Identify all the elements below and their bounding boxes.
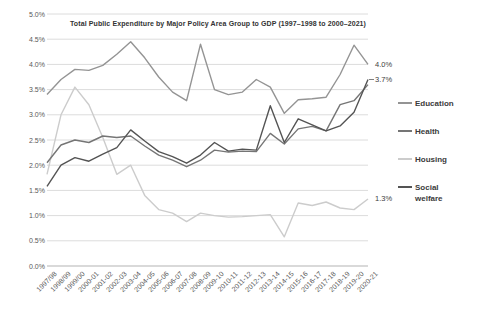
y-tick-label: 1.0% xyxy=(19,211,45,220)
legend-item-social-welfare: Social welfare xyxy=(398,182,470,204)
y-tick-label: 0.0% xyxy=(19,262,45,271)
end-label-leader-tick xyxy=(369,79,374,80)
legend-item-health: Health xyxy=(398,126,470,137)
y-tick-label: 3.0% xyxy=(19,110,45,119)
legend-label: Housing xyxy=(415,154,463,165)
y-tick-label: 3.5% xyxy=(19,85,45,94)
y-tick-label: 2.0% xyxy=(19,161,45,170)
legend-item-housing: Housing xyxy=(398,154,470,165)
legend: EducationHealthHousingSocial welfare xyxy=(398,98,470,221)
y-tick-label: 0.5% xyxy=(19,236,45,245)
series-line-education xyxy=(47,42,368,114)
y-tick-label: 5.0% xyxy=(19,10,45,19)
y-tick-label: 4.0% xyxy=(19,60,45,69)
end-label-social-welfare: 3.7% xyxy=(375,75,392,84)
y-tick-label: 1.5% xyxy=(19,186,45,195)
legend-line-swatch xyxy=(398,158,412,160)
series-line-health xyxy=(47,85,368,167)
chart-container: Total Public Expenditure by Major Policy… xyxy=(0,0,478,311)
y-tick-label: 4.5% xyxy=(19,35,45,44)
series-line-housing xyxy=(47,87,368,237)
legend-line-swatch xyxy=(398,102,412,104)
end-label-education: 4.0% xyxy=(375,60,392,69)
legend-label: Education xyxy=(415,98,463,109)
end-label-housing: 1.3% xyxy=(375,194,392,203)
legend-label: Social welfare xyxy=(415,182,463,204)
legend-item-education: Education xyxy=(398,98,470,109)
legend-label: Health xyxy=(415,126,463,137)
series-line-social-welfare xyxy=(47,80,368,187)
legend-line-swatch xyxy=(398,130,412,132)
legend-line-swatch xyxy=(398,186,412,188)
y-tick-label: 2.5% xyxy=(19,136,45,145)
